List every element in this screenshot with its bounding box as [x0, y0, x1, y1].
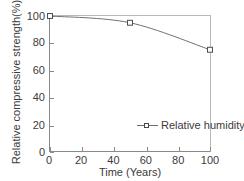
- data-point-marker: [208, 47, 213, 52]
- x-axis-tick: [210, 147, 211, 151]
- y-tick-label: 40: [1, 92, 45, 103]
- x-axis-title: Time (Years): [49, 166, 211, 178]
- plot-area: [49, 15, 211, 152]
- x-tick-label: 100: [190, 155, 230, 166]
- y-tick-label: 60: [1, 64, 45, 75]
- y-axis-tick-labels: 0 20 40 60 80 100: [0, 15, 45, 152]
- y-axis-tick: [50, 152, 54, 153]
- y-tick-label: 20: [1, 119, 45, 130]
- chart-container: 0 20 40 60 80 100 0 20 40 60 80 100 Time…: [0, 0, 244, 181]
- y-axis-title: Relative compressive strength(%): [10, 0, 22, 167]
- legend-label: Relative humidity: [161, 120, 244, 131]
- square-marker-icon: [144, 123, 149, 128]
- legend: Relative humidity: [137, 120, 244, 131]
- series-markers: [48, 14, 213, 53]
- legend-sample: [137, 121, 158, 130]
- data-point-marker: [128, 20, 133, 25]
- y-tick-label: 100: [1, 11, 45, 22]
- y-tick-label: 80: [1, 37, 45, 48]
- data-point-marker: [48, 14, 53, 19]
